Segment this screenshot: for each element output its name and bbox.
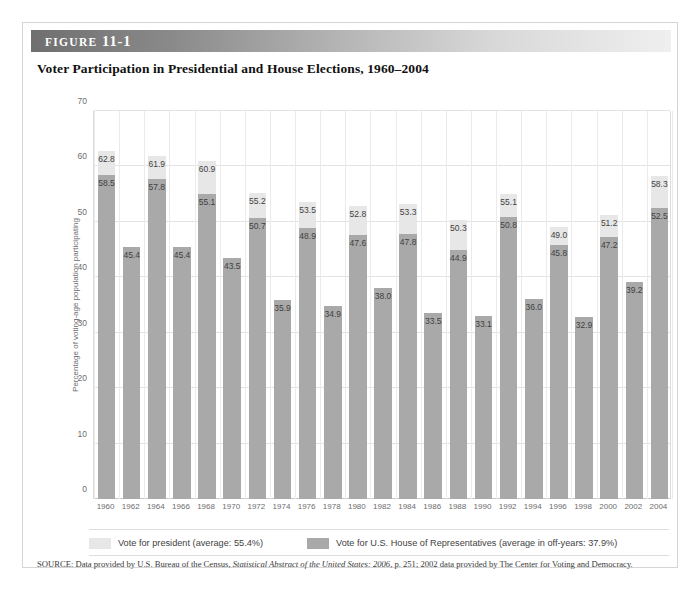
bar-segment-house[interactable]: 50.7 [249,218,267,499]
x-axis-tick-label: 1966 [168,502,193,511]
bar-segment-house[interactable]: 45.4 [173,247,191,499]
bar-group[interactable]: 61.957.8 [148,111,166,499]
x-axis-tick-label: 1970 [219,502,244,511]
bar-segment-house[interactable]: 47.8 [399,234,417,499]
bar-segment-president[interactable]: 61.9 [148,156,166,179]
bar-segment-house[interactable]: 47.6 [349,235,367,499]
x-gridline [546,111,547,499]
bar-value-label-house: 50.7 [249,221,267,231]
bar-group[interactable]: 38.0 [374,111,392,499]
legend-label-house: Vote for U.S. House of Representatives (… [336,538,617,548]
source-note: SOURCE: Data provided by U.S. Bureau of … [37,559,665,569]
y-axis-tick-label: 60 [47,151,87,161]
source-suffix: , p. 251; 2002 data provided by The Cent… [390,559,633,569]
chart-area: 62.858.545.461.957.845.460.955.143.555.2… [93,111,671,499]
bar-segment-president[interactable]: 55.1 [500,194,518,218]
x-axis-tick-label: 2002 [621,502,646,511]
bar-segment-president[interactable]: 62.8 [98,151,116,175]
bar-group[interactable]: 33.1 [475,111,493,499]
source-italic-title: Statistical Abstract of the United State… [233,559,390,569]
bar-segment-house[interactable]: 33.5 [424,313,442,499]
x-gridline [622,111,623,499]
x-axis-tick-label: 1968 [194,502,219,511]
bar-segment-house[interactable]: 35.9 [274,300,292,499]
figure-label-number: 11-1 [102,33,131,49]
source-prefix: SOURCE: Data provided by U.S. Bureau of … [37,559,233,569]
bar-value-label-house: 44.9 [450,253,468,263]
bar-group[interactable]: 55.150.8 [500,111,518,499]
bar-segment-house[interactable]: 52.5 [651,208,669,499]
bar-group[interactable]: 32.9 [575,111,593,499]
bar-group[interactable]: 50.344.9 [450,111,468,499]
bar-segment-president[interactable]: 53.3 [399,204,417,234]
bar-segment-house[interactable]: 36.0 [525,299,543,499]
bar-group[interactable]: 52.847.6 [349,111,367,499]
bar-segment-house[interactable]: 55.1 [198,194,216,499]
x-axis-tick-label: 1978 [319,502,344,511]
bar-group[interactable]: 43.5 [223,111,241,499]
x-axis-tick-label: 1988 [445,502,470,511]
bar-segment-house[interactable]: 45.4 [123,247,141,499]
x-gridline [521,111,522,499]
figure-label-word: FIGURE [45,36,98,48]
x-gridline [471,111,472,499]
bar-group[interactable]: 36.0 [525,111,543,499]
bar-value-label-president: 49.0 [550,230,568,240]
bar-group[interactable]: 62.858.5 [98,111,116,499]
x-axis-tick-label: 1980 [344,502,369,511]
bar-segment-house[interactable]: 43.5 [223,258,241,499]
bar-group[interactable]: 58.352.5 [651,111,669,499]
bar-group[interactable]: 45.4 [173,111,191,499]
bar-value-label-house: 48.9 [299,231,317,241]
bar-value-label-president: 61.9 [148,159,166,169]
bar-value-label-house: 34.9 [324,309,342,319]
bar-group[interactable]: 34.9 [324,111,342,499]
bar-segment-president[interactable]: 53.5 [299,202,317,227]
bar-segment-house[interactable]: 47.2 [600,237,618,499]
bar-segment-house[interactable]: 39.2 [626,282,644,499]
bar-group[interactable]: 60.955.1 [198,111,216,499]
bar-segment-house[interactable]: 48.9 [299,228,317,499]
bar-segment-president[interactable]: 52.8 [349,206,367,235]
bar-segment-president[interactable]: 50.3 [450,220,468,250]
bar-group[interactable]: 49.045.8 [550,111,568,499]
bar-group[interactable]: 35.9 [274,111,292,499]
bar-value-label-house: 47.8 [399,237,417,247]
bar-segment-president[interactable]: 60.9 [198,161,216,193]
legend-item-president: Vote for president (average: 55.4%) [89,538,263,549]
bar-value-label-house: 36.0 [525,302,543,312]
bar-segment-president[interactable]: 51.2 [600,215,618,237]
bar-group[interactable]: 55.250.7 [249,111,267,499]
bar-value-label-house: 38.0 [374,291,392,301]
bar-group[interactable]: 33.5 [424,111,442,499]
bar-segment-president[interactable]: 49.0 [550,227,568,245]
bar-segment-house[interactable]: 50.8 [500,217,518,499]
bar-group[interactable]: 39.2 [626,111,644,499]
x-gridline [672,111,673,499]
bar-segment-house[interactable]: 33.1 [475,316,493,499]
bar-segment-house[interactable]: 32.9 [575,317,593,499]
x-axis-tick-label: 1984 [395,502,420,511]
bar-group[interactable]: 45.4 [123,111,141,499]
bar-segment-house[interactable]: 57.8 [148,179,166,499]
bar-segment-house[interactable]: 45.8 [550,245,568,499]
bar-segment-house[interactable]: 58.5 [98,175,116,499]
x-gridline [597,111,598,499]
bar-segment-house[interactable]: 44.9 [450,250,468,499]
bar-group[interactable]: 53.347.8 [399,111,417,499]
bar-segment-president[interactable]: 55.2 [249,193,267,218]
legend-swatch-president-icon [89,538,111,549]
bar-group[interactable]: 53.548.9 [299,111,317,499]
bar-segment-president[interactable]: 58.3 [651,176,669,208]
bar-value-label-house: 58.5 [98,178,116,188]
bar-segment-house[interactable]: 38.0 [374,288,392,499]
bar-segment-house[interactable]: 34.9 [324,306,342,499]
bar-value-label-house: 50.8 [500,220,518,230]
x-axis-tick-label: 1982 [369,502,394,511]
bar-value-label-house: 57.8 [148,182,166,192]
bar-group[interactable]: 51.247.2 [600,111,618,499]
bar-value-label-house: 35.9 [274,303,292,313]
y-axis-tick-label: 10 [47,429,87,439]
x-gridline [270,111,271,499]
bar-value-label-house: 45.4 [123,250,141,260]
